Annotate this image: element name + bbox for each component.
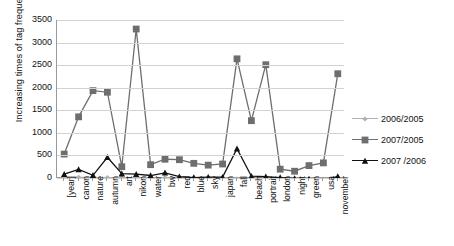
x-axis-tick-label: japan (225, 176, 235, 242)
data-point-marker (176, 156, 183, 163)
data-point-marker (320, 159, 327, 166)
data-point-marker (162, 156, 169, 163)
legend-swatch-square-icon (352, 134, 378, 146)
data-point-marker (277, 166, 284, 173)
data-point-marker (362, 157, 368, 163)
data-point-marker (75, 113, 82, 120)
gridline (57, 43, 344, 44)
x-axis-tick-label: london (282, 176, 292, 242)
gridline (57, 65, 344, 66)
x-axis-tick-label: sky (210, 176, 220, 242)
legend-item[interactable]: 2007 /2006 (352, 150, 452, 171)
data-point-marker (118, 163, 125, 170)
legend-label: 2006/2005 (381, 114, 424, 124)
x-axis-tick-label: beach (254, 176, 264, 242)
data-point-marker (190, 160, 197, 167)
x-axis-tick-label: water (153, 176, 163, 242)
y-axis-tick-label: 3000 (12, 38, 52, 47)
data-point-marker (234, 55, 241, 62)
plot-area (56, 20, 344, 178)
line-chart: Increasing times of tag frequency 050010… (0, 0, 454, 246)
data-point-marker (306, 162, 313, 169)
x-axis-tick-label: night (297, 176, 307, 242)
data-point-marker (219, 161, 226, 168)
series-line (64, 29, 338, 171)
gridline (57, 20, 344, 21)
y-axis-tick-label: 0 (12, 173, 52, 182)
legend-label: 2007 /2006 (381, 156, 426, 166)
x-axis-tick-label: canon (81, 176, 91, 242)
x-axis-tick-label: [year] (66, 176, 76, 242)
data-point-marker (362, 136, 369, 143)
chart-legend: 2006/20052007/20052007 /2006 (352, 108, 452, 171)
data-point-marker (75, 166, 81, 172)
data-point-marker (104, 89, 111, 96)
y-axis-tick-label: 2500 (12, 60, 52, 69)
x-axis-tick-label: fall (239, 176, 249, 242)
data-point-marker (133, 26, 140, 33)
legend-swatch-diamond-icon (352, 113, 378, 125)
legend-marker-icon (361, 157, 369, 165)
data-point-marker (362, 116, 367, 121)
data-point-marker (291, 168, 298, 175)
y-axis-tick-label: 3500 (12, 15, 52, 24)
x-axis-tick-label: autumn (110, 176, 120, 242)
data-point-marker (147, 161, 154, 168)
x-axis-tick-label: art (124, 176, 134, 242)
x-axis-tick-label: nikon (138, 176, 148, 242)
x-axis-tick-label: blue (196, 176, 206, 242)
gridline (57, 155, 344, 156)
series-2007--2006 (61, 145, 341, 178)
x-axis-tick-label: november (340, 176, 350, 242)
data-point-marker (205, 162, 212, 169)
y-axis-tick-label: 500 (12, 150, 52, 159)
y-axis-tick-label: 1000 (12, 128, 52, 137)
data-point-marker (248, 117, 255, 124)
legend-label: 2007/2005 (381, 135, 424, 145)
legend-item[interactable]: 2007/2005 (352, 129, 452, 150)
y-axis-tick-label: 2000 (12, 83, 52, 92)
data-point-marker (61, 151, 68, 158)
legend-marker-icon (361, 115, 369, 123)
legend-item[interactable]: 2006/2005 (352, 108, 452, 129)
x-axis-tick-labels: [year]canonnatureautumnartnikonwaterbwre… (56, 180, 344, 246)
x-axis-tick-label: bw (167, 176, 177, 242)
gridline (57, 133, 344, 134)
data-point-marker (234, 145, 240, 151)
x-axis-tick-label: usa (326, 176, 336, 242)
series-2007-2005 (61, 26, 341, 175)
gridline (57, 110, 344, 111)
x-axis-tick-label: green (311, 176, 321, 242)
legend-swatch-triangle-icon (352, 155, 378, 167)
x-axis-tick-label: nature (95, 176, 105, 242)
data-point-marker (334, 70, 341, 77)
gridline (57, 88, 344, 89)
y-axis-tick-label: 1500 (12, 105, 52, 114)
x-axis-tick-label: portrait (268, 176, 278, 242)
legend-marker-icon (361, 136, 369, 144)
x-axis-tick-label: red (182, 176, 192, 242)
series-layer (57, 20, 345, 178)
